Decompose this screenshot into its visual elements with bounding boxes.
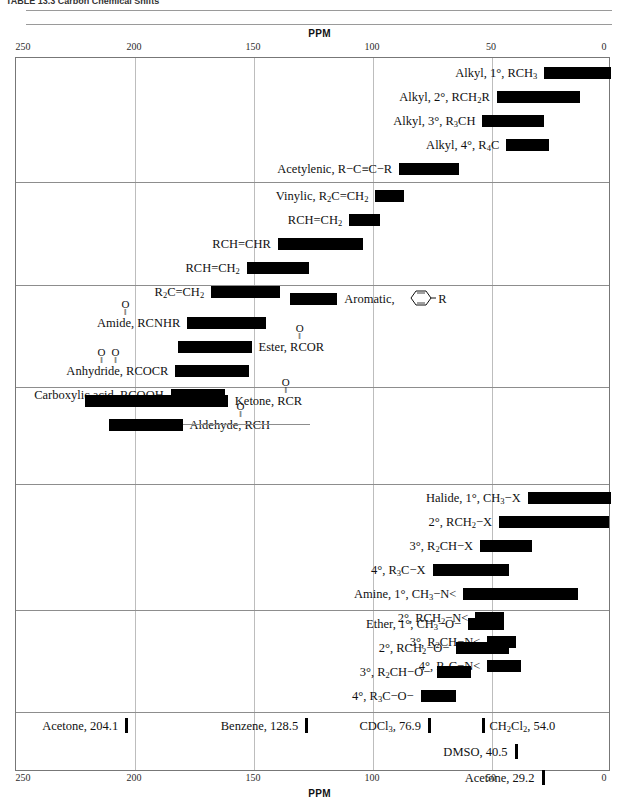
row-label: Vinylic, R2C=CH2 [276, 186, 369, 209]
range-bar [528, 492, 611, 504]
range-bar [468, 618, 504, 630]
range-bar [437, 666, 470, 678]
chart-row: Aldehyde, RCH [16, 413, 609, 437]
tick-top-0: 0 [602, 41, 607, 52]
row-label: Ether, 1°, CH3−O− [366, 614, 461, 637]
solvent-marker [305, 718, 308, 733]
range-bar [497, 91, 580, 103]
row-label: 3°, R2CH−O− [360, 662, 431, 685]
row-label: Alkyl, 3°, R3CH [393, 111, 475, 134]
solvent-label: Benzene, 128.5 [221, 717, 298, 735]
chart-row: Alkyl, 3°, R3CH [16, 109, 609, 133]
row-label: Aromatic, [344, 289, 394, 309]
row-label: RCH=CH2 [185, 258, 239, 281]
solvent-marker [482, 718, 485, 733]
row-label: 2°, RCH2−X [429, 512, 493, 535]
chart-row: Acetylenic, R−C≡C−R [16, 157, 609, 181]
title-rule-top [26, 10, 612, 11]
tick-top-200: 200 [127, 41, 142, 52]
solvent-marker [515, 744, 518, 759]
tick-bottom-50: 50 [486, 772, 496, 783]
chart-row: Vinylic, R2C=CH2 [16, 184, 609, 208]
row-label: 2°, RCH2−O− [379, 638, 450, 661]
chart-row: Amide, RCNHR [16, 311, 609, 335]
axis-label-top: PPM [0, 28, 639, 39]
axis-ticks-bottom: 250200150100500 [0, 772, 639, 786]
tick-bottom-200: 200 [127, 772, 142, 783]
chart-row: 4°, R3C−O− [16, 684, 609, 708]
row-label: Aldehyde, RCH [190, 415, 271, 435]
group-separator-6 [16, 712, 609, 713]
range-bar [178, 341, 252, 353]
range-bar [278, 238, 364, 250]
range-bar [247, 262, 309, 274]
chart-row: 2°, RCH2−O− [16, 636, 609, 660]
tick-top-150: 150 [246, 41, 261, 52]
group-separator-4 [16, 484, 609, 485]
range-bar [506, 139, 549, 151]
leader-line [183, 424, 310, 425]
row-label: 4°, R3C−X [371, 560, 426, 583]
table-title-bar: TABLE 13.3 Carbon Chemical Shifts [0, 0, 639, 10]
chart-row: RCH=CH2 [16, 256, 609, 280]
tick-top-50: 50 [486, 41, 496, 52]
row-label: 3°, R2CH−X [410, 536, 474, 559]
chart-row: Alkyl, 1°, RCH3 [16, 61, 609, 85]
chart-row: 3°, R2CH−O− [16, 660, 609, 684]
benzene-ring-icon [406, 288, 440, 308]
row-label: Halide, 1°, CH3−X [426, 488, 521, 511]
chart-plot-area: Alkyl, 1°, RCH3Alkyl, 2°, RCH2RAlkyl, 3°… [15, 57, 610, 771]
tick-bottom-150: 150 [246, 772, 261, 783]
tick-bottom-100: 100 [365, 772, 380, 783]
range-bar [421, 690, 457, 702]
range-bar [290, 293, 338, 305]
row-label: Amide, RCNHR [97, 313, 180, 333]
row-label: Amine, 1°, CH3−N< [354, 584, 457, 607]
range-bar [499, 516, 608, 528]
chart-row: 2°, RCH2−X [16, 510, 609, 534]
tick-bottom-0: 0 [602, 772, 607, 783]
solvent-label: Acetone, 204.1 [42, 717, 118, 735]
range-bar [399, 163, 459, 175]
carbonyl-oxygen-icon: O‖ [94, 348, 108, 365]
solvent-label: CDCl3, 76.9 [359, 717, 421, 738]
row-label: Alkyl, 2°, RCH2R [399, 87, 490, 110]
title-rule-bottom [26, 24, 612, 25]
chart-row: Alkyl, 4°, R4C [16, 133, 609, 157]
page-title: TABLE 13.3 Carbon Chemical Shifts [0, 0, 639, 8]
axis-label-bottom: PPM [0, 788, 639, 799]
range-bar [109, 419, 183, 431]
range-bar [433, 564, 509, 576]
solvent-marker [428, 718, 431, 733]
solvent-marker [125, 718, 128, 733]
carbonyl-oxygen-icon: O‖ [234, 402, 248, 419]
row-label: Alkyl, 4°, R4C [426, 135, 499, 158]
chart-row: Aromatic, [16, 287, 609, 311]
range-bar [463, 588, 577, 600]
range-bar [187, 317, 266, 329]
chart-row: Ether, 1°, CH3−O− [16, 612, 609, 636]
aromatic-r-substituent-label: R [438, 289, 446, 309]
axis-ticks-top: 250200150100500 [0, 41, 639, 55]
group-separator-1 [16, 182, 609, 183]
chart-row: RCH=CHR [16, 232, 609, 256]
solvent-label: CH2Cl2, 54.0 [489, 717, 555, 738]
range-bar [456, 642, 508, 654]
chart-row: 3°, R2CH−X [16, 534, 609, 558]
range-bar [482, 115, 544, 127]
chart-row: Alkyl, 2°, RCH2R [16, 85, 609, 109]
row-label: RCH=CHR [212, 234, 270, 254]
carbonyl-oxygen-icon: O‖ [108, 348, 122, 365]
row-label: 4°, R3C−O− [352, 686, 414, 709]
carbonyl-oxygen-icon: O‖ [279, 378, 293, 395]
row-label: Acetylenic, R−C≡C−R [277, 159, 392, 179]
row-label: RCH=CH2 [288, 210, 342, 233]
tick-bottom-250: 250 [16, 772, 31, 783]
solvent-label: DMSO, 40.5 [443, 743, 507, 761]
chart-row: Halide, 1°, CH3−X [16, 486, 609, 510]
row-label: Alkyl, 1°, RCH3 [455, 63, 537, 86]
range-bar [480, 540, 532, 552]
range-bar [85, 395, 228, 407]
tick-top-100: 100 [365, 41, 380, 52]
chart-row: Ketone, RCR [16, 389, 609, 413]
